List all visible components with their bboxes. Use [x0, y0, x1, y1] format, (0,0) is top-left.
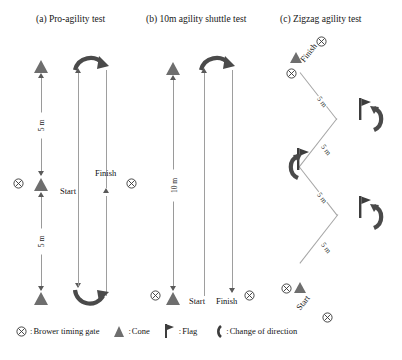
legend-item-cone: : Cone	[112, 324, 149, 338]
measure-arrowhead-icon	[38, 171, 44, 176]
change-of-direction-icon	[280, 152, 302, 182]
change-of-direction-icon	[370, 202, 392, 232]
flag-icon	[163, 324, 177, 338]
finish-label: Finish	[216, 296, 237, 306]
timing-gate-icon	[14, 324, 28, 338]
change-of-direction-icon	[196, 46, 238, 72]
path-arrowhead-icon	[103, 188, 109, 193]
cone-icon	[34, 60, 48, 73]
timing-gate-icon	[126, 178, 137, 189]
measure-arrowhead-icon	[170, 75, 176, 80]
cone-icon	[34, 178, 48, 191]
legend-label: Cone	[132, 326, 150, 336]
run-path	[106, 196, 107, 296]
run-path	[78, 262, 79, 286]
measure-arrowhead-icon	[38, 192, 44, 197]
change-of-direction-icon	[70, 46, 112, 72]
run-path	[232, 70, 233, 292]
finish-label: Finish	[298, 41, 319, 64]
change-of-direction-icon	[210, 324, 224, 338]
agility-tests-figure: (a) Pro-agility test (b) 10m agility shu…	[0, 0, 402, 360]
timing-gate-icon	[244, 290, 255, 301]
legend-separator: :	[179, 326, 181, 336]
distance-label: 5 m	[318, 240, 333, 256]
start-label: Start	[294, 293, 312, 312]
legend-separator: :	[226, 326, 228, 336]
cone-icon	[166, 292, 180, 305]
measure-arrowhead-icon	[38, 73, 44, 78]
legend: : Brower timing gate : Cone : Flag	[14, 324, 310, 338]
path-arrowhead-icon	[229, 288, 235, 293]
timing-gate-icon	[322, 312, 333, 323]
change-of-direction-icon	[370, 104, 392, 134]
distance-label: 5 m	[36, 229, 47, 255]
legend-item-flag: : Flag	[163, 324, 198, 338]
legend-separator: :	[128, 326, 130, 336]
distance-label: 10 m	[169, 170, 180, 202]
distance-label: 5 m	[318, 142, 333, 158]
change-of-direction-icon	[70, 288, 112, 316]
measure-arrowhead-icon	[38, 286, 44, 291]
legend-label: Flag	[182, 326, 197, 336]
panel-title-shuttle: (b) 10m agility shuttle test	[146, 14, 246, 24]
timing-gate-icon	[281, 283, 292, 294]
cone-icon	[294, 282, 306, 293]
run-path	[204, 72, 205, 296]
start-label: Start	[189, 296, 205, 306]
start-label: Start	[60, 186, 76, 196]
timing-gate-icon	[150, 290, 161, 301]
timing-gate-icon	[286, 68, 297, 79]
run-path	[78, 72, 79, 264]
panel-title-pro-agility: (a) Pro-agility test	[36, 14, 105, 24]
panel-title-zigzag: (c) Zigzag agility test	[280, 14, 362, 24]
zigzag-segment	[299, 214, 338, 263]
cone-icon	[34, 292, 48, 305]
finish-label: Finish	[95, 168, 116, 178]
legend-item-timing-gate: : Brower timing gate	[14, 324, 99, 338]
distance-label: 5 m	[36, 113, 47, 139]
legend-label: Change of direction	[230, 326, 298, 336]
measure-arrowhead-icon	[170, 286, 176, 291]
timing-gate-icon	[13, 178, 24, 189]
cone-icon	[112, 324, 126, 338]
legend-item-change-of-direction: : Change of direction	[210, 324, 297, 338]
legend-label: Brower timing gate	[33, 326, 99, 336]
legend-separator: :	[30, 326, 32, 336]
cone-icon	[166, 62, 180, 75]
